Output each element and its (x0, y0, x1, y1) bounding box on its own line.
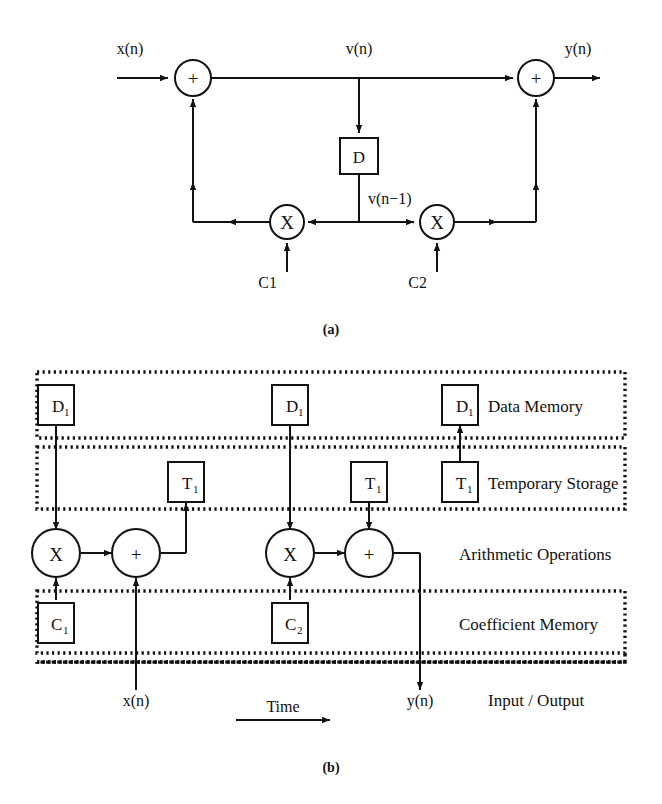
label-adder-right: + (531, 68, 542, 89)
label-coefficient-cell-2-sub: 2 (297, 624, 303, 636)
label-delay-box: D (353, 148, 365, 167)
label-input-xn: x(n) (117, 40, 144, 58)
label-temp-storage-cell-3-sub: 1 (467, 483, 473, 495)
label-data-memory-cell-3-sub: 1 (468, 406, 474, 418)
label-region-data-memory: Data Memory (488, 397, 583, 416)
label-data-memory-cell-2: D (286, 397, 298, 416)
label-region-coefficient-memory: Coefficient Memory (459, 615, 598, 634)
figure-canvas: x(n) v(n) y(n) v(n−1) + + X X D C1 C2 (a… (0, 0, 662, 804)
label-mult-left: X (280, 212, 294, 233)
label-b-input-xn: x(n) (123, 692, 150, 710)
label-region-temporary-storage: Temporary Storage (488, 474, 619, 493)
label-time-axis: Time (266, 698, 299, 715)
figure-root: x(n) v(n) y(n) v(n−1) + + X X D C1 C2 (a… (0, 0, 662, 804)
label-node-vn: v(n) (346, 40, 373, 58)
caption-a: (a) (323, 322, 340, 338)
label-temp-storage-cell-2: T (365, 474, 376, 493)
label-arith-mult-2: X (283, 544, 297, 565)
label-temp-storage-cell-2-sub: 1 (376, 483, 382, 495)
label-arith-adder-2: + (364, 544, 375, 565)
diagram-b-cells (38, 385, 478, 643)
label-delayed-vn: v(n−1) (368, 190, 412, 208)
label-coefficient-c1: C1 (258, 274, 277, 291)
label-data-memory-cell-1-sub: 1 (64, 406, 70, 418)
label-coefficient-cell-1-sub: 1 (63, 624, 69, 636)
label-coefficient-cell-2: C (285, 615, 296, 634)
label-arith-mult-1: X (49, 544, 63, 565)
label-output-yn: y(n) (565, 40, 592, 58)
label-temp-storage-cell-1-sub: 1 (193, 483, 199, 495)
label-temp-storage-cell-3: T (456, 474, 467, 493)
label-data-memory-cell-3: D (456, 397, 468, 416)
label-b-output-yn: y(n) (407, 692, 434, 710)
label-coefficient-c2: C2 (408, 274, 427, 291)
label-region-arithmetic-operations: Arithmetic Operations (459, 545, 612, 564)
label-adder-left: + (188, 68, 199, 89)
label-data-memory-cell-2-sub: 1 (298, 406, 304, 418)
label-data-memory-cell-1: D (52, 397, 64, 416)
label-coefficient-cell-1: C (51, 615, 62, 634)
caption-b: (b) (322, 760, 339, 776)
label-mult-right: X (430, 212, 444, 233)
diagram-b-labels: D 1 D 1 D 1 T 1 T 1 T 1 C 1 C 2 X + X + … (49, 397, 618, 776)
label-region-input-output: Input / Output (488, 691, 585, 710)
label-temp-storage-cell-1: T (182, 474, 193, 493)
label-arith-adder-1: + (131, 544, 142, 565)
